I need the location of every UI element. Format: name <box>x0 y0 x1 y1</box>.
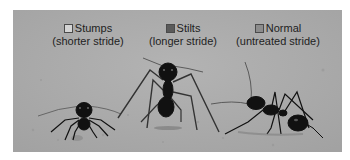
legend-label-stumps: Stumps <box>75 22 112 35</box>
stumps-swatch <box>64 24 73 33</box>
legend-item-stilts: Stilts (longer stride) <box>138 22 228 48</box>
legend-label-stilts: Stilts <box>177 22 201 35</box>
stilts-swatch <box>166 24 175 33</box>
legend: Stumps (shorter stride) Stilts (longer s… <box>13 22 342 54</box>
legend-sublabel-normal: (untreated stride) <box>228 35 328 48</box>
legend-item-normal: Normal (untreated stride) <box>228 22 328 48</box>
legend-sublabel-stumps: (shorter stride) <box>43 35 133 48</box>
photo-panel: Stumps (shorter stride) Stilts (longer s… <box>13 10 342 152</box>
normal-swatch <box>255 24 264 33</box>
legend-item-stumps: Stumps (shorter stride) <box>43 22 133 48</box>
legend-label-normal: Normal <box>266 22 301 35</box>
legend-sublabel-stilts: (longer stride) <box>138 35 228 48</box>
